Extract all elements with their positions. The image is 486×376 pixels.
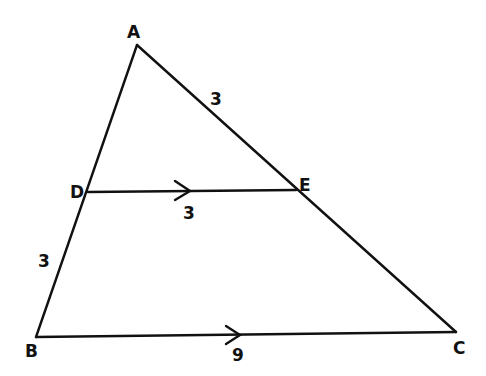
length-label-db: 3 [38, 251, 50, 271]
diagram-svg: ABCDE3339 [0, 0, 486, 376]
length-label-ae: 3 [210, 89, 222, 109]
vertex-label-c: C [453, 338, 465, 358]
vertex-label-d: D [70, 182, 84, 202]
triangle-diagram: ABCDE3339 [0, 0, 486, 376]
vertex-label-a: A [127, 22, 141, 42]
length-label-de: 3 [183, 203, 195, 223]
side-bc [36, 332, 456, 337]
vertex-label-e: E [299, 175, 311, 195]
vertex-label-b: B [25, 341, 38, 361]
length-label-bc: 9 [232, 345, 244, 365]
